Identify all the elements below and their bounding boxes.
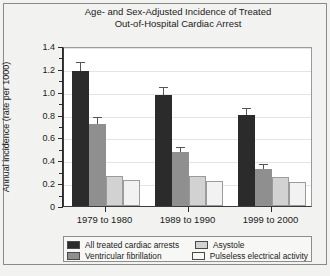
x-tick-mark [271, 207, 272, 212]
gridline [64, 71, 311, 72]
y-tick-mark [58, 93, 62, 94]
x-tick-label: 1989 to 1990 [160, 214, 215, 225]
figure: Age- and Sex-Adjusted Incidence of Treat… [0, 0, 330, 276]
error-bar [180, 148, 181, 153]
y-tick-mark [58, 161, 62, 162]
error-bar-cap [176, 147, 185, 148]
error-bar-cap [242, 108, 251, 109]
bar [206, 181, 223, 206]
y-tick-label: 1.2 [29, 65, 55, 75]
y-tick-label: 1.0 [29, 88, 55, 98]
y-tick-mark [58, 47, 62, 48]
plot-area [63, 47, 312, 207]
legend-label: All treated cardiac arrests [85, 240, 179, 250]
bar [272, 177, 289, 206]
error-bar-cap [93, 117, 102, 118]
bar [155, 95, 172, 206]
y-tick-mark [58, 184, 62, 185]
y-tick-minor [59, 58, 62, 59]
error-bar [246, 109, 247, 115]
legend-item-ventricular-fibrillation: Ventricular fibrillation [67, 251, 192, 261]
y-tick-label: 0.2 [29, 179, 55, 189]
bar [72, 71, 89, 206]
error-bar [80, 63, 81, 71]
y-tick-label: 0.8 [29, 111, 55, 121]
bar [255, 169, 272, 206]
legend-swatch-icon [67, 241, 80, 249]
chart-title: Age- and Sex-Adjusted Incidence of Treat… [40, 6, 316, 29]
legend-label: Pulseless electrical activity [210, 251, 308, 261]
bar [106, 176, 123, 206]
y-tick-label: 0.6 [29, 133, 55, 143]
y-tick-minor [59, 81, 62, 82]
bar [89, 124, 106, 206]
legend-row: All treated cardiac arrests Asystole [67, 240, 308, 250]
error-bar [97, 118, 98, 124]
x-tick-label: 1979 to 1980 [77, 214, 132, 225]
error-bar [263, 165, 264, 170]
bar [189, 176, 206, 206]
y-tick-minor [59, 104, 62, 105]
bar [289, 182, 306, 206]
legend-item-asystole: Asystole [195, 240, 244, 250]
error-bar-cap [159, 87, 168, 88]
bar [123, 180, 140, 206]
x-tick-mark [105, 207, 106, 212]
legend-label: Ventricular fibrillation [85, 251, 162, 261]
y-tick-label: 0.4 [29, 156, 55, 166]
legend-item-pulseless-electrical-activity: Pulseless electrical activity [192, 251, 308, 261]
x-tick-label: 1999 to 2000 [243, 214, 298, 225]
legend-swatch-icon [195, 241, 208, 249]
y-tick-mark [58, 207, 62, 208]
chart-legend: All treated cardiac arrests Asystole Ven… [63, 236, 312, 262]
y-tick-mark [58, 116, 62, 117]
y-tick-label: 1.4 [29, 42, 55, 52]
legend-label: Asystole [213, 240, 244, 250]
y-tick-minor [59, 127, 62, 128]
gridline [64, 94, 311, 95]
chart-title-line-2: Out-of-Hospital Cardiac Arrest [40, 18, 316, 30]
y-tick-minor [59, 150, 62, 151]
legend-row: Ventricular fibrillation Pulseless elect… [67, 251, 308, 261]
error-bar-cap [76, 62, 85, 63]
legend-swatch-icon [67, 252, 80, 260]
bar [238, 115, 255, 206]
y-axis-label: Annual incidence (rate per 1000) [1, 47, 15, 207]
legend-swatch-icon [192, 252, 205, 260]
chart-title-line-1: Age- and Sex-Adjusted Incidence of Treat… [40, 6, 316, 18]
legend-item-all-treated-cardiac-arrests: All treated cardiac arrests [67, 240, 195, 250]
gridline [64, 48, 311, 49]
y-tick-mark [58, 138, 62, 139]
y-tick-label: 0 [29, 202, 55, 212]
x-tick-mark [188, 207, 189, 212]
y-tick-minor [59, 196, 62, 197]
y-tick-minor [59, 173, 62, 174]
error-bar-cap [259, 164, 268, 165]
bar [172, 152, 189, 206]
y-tick-mark [58, 70, 62, 71]
error-bar [163, 88, 164, 95]
y-axis: 00.20.40.60.81.01.21.4 [31, 47, 63, 208]
